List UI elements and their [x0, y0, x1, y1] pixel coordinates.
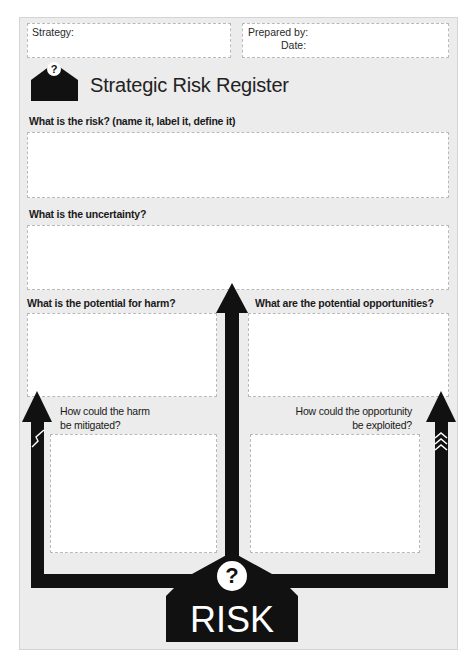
logo-question-glyph: ? — [48, 62, 60, 76]
left-arrow-cracked-icon — [22, 391, 52, 588]
center-arrow-icon — [216, 283, 248, 567]
right-arrow-boost-icon — [426, 391, 456, 588]
badge-question-glyph: ? — [220, 562, 244, 590]
risk-badge-label: RISK — [166, 600, 298, 640]
